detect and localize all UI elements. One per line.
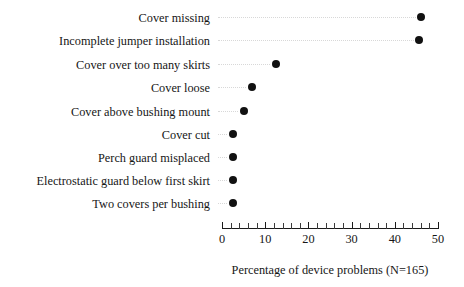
category-label: Cover cut <box>0 125 210 145</box>
leader-line <box>218 17 416 19</box>
x-tick-minor <box>300 223 301 229</box>
x-tick-minor <box>231 223 232 229</box>
x-tick-minor <box>421 223 422 229</box>
data-point-marker <box>417 13 425 21</box>
x-tick-major <box>308 222 309 229</box>
x-tick-minor <box>274 223 275 229</box>
leader-line <box>218 134 227 136</box>
x-tick-minor <box>386 223 387 229</box>
dot-plot-row: Electrostatic guard below first skirt <box>0 171 464 191</box>
leader-line <box>218 203 227 205</box>
category-label: Incomplete jumper installation <box>0 31 210 51</box>
x-tick-major <box>438 222 439 229</box>
dot-plot-row: Cover above bushing mount <box>0 102 464 122</box>
x-tick-minor <box>239 223 240 229</box>
x-tick-minor <box>317 223 318 229</box>
leader-line <box>218 111 238 113</box>
category-label: Two covers per bushing <box>0 194 210 214</box>
category-label: Electrostatic guard below first skirt <box>0 171 210 191</box>
x-tick-minor <box>283 223 284 229</box>
x-tick-major <box>352 222 353 229</box>
axis-line <box>222 228 438 229</box>
x-tick-minor <box>291 223 292 229</box>
x-tick-label: 30 <box>332 231 372 247</box>
x-tick-minor <box>429 223 430 229</box>
leader-line <box>218 180 227 182</box>
leader-line <box>218 40 414 42</box>
category-label: Perch guard misplaced <box>0 148 210 168</box>
data-point-marker <box>415 36 423 44</box>
leader-line <box>218 87 246 89</box>
data-point-marker <box>229 176 237 184</box>
x-axis: 0 10 20 30 40 50 <box>0 222 464 252</box>
dot-plot-chart: Cover missing Incomplete jumper installa… <box>0 0 464 287</box>
dot-plot-row: Cover cut <box>0 125 464 145</box>
x-tick-minor <box>378 223 379 229</box>
data-point-marker <box>272 60 280 68</box>
x-tick-label: 10 <box>245 231 285 247</box>
category-label: Cover above bushing mount <box>0 102 210 122</box>
x-tick-label: 50 <box>418 231 458 247</box>
data-point-marker <box>240 107 248 115</box>
x-tick-minor <box>343 223 344 229</box>
x-tick-minor <box>248 223 249 229</box>
data-point-marker <box>229 130 237 138</box>
x-tick-label: 40 <box>375 231 415 247</box>
data-point-marker <box>229 153 237 161</box>
x-tick-major <box>395 222 396 229</box>
category-label: Cover missing <box>0 8 210 28</box>
dot-plot-row: Cover loose <box>0 78 464 98</box>
data-point-marker <box>248 83 256 91</box>
x-tick-label: 20 <box>288 231 328 247</box>
x-tick-minor <box>403 223 404 229</box>
dot-plot-row: Perch guard misplaced <box>0 148 464 168</box>
x-tick-minor <box>369 223 370 229</box>
dot-plot-row: Incomplete jumper installation <box>0 31 464 51</box>
x-tick-minor <box>257 223 258 229</box>
dot-plot-row: Cover over too many skirts <box>0 55 464 75</box>
dot-plot-row: Two covers per bushing <box>0 194 464 214</box>
dot-plot-row: Cover missing <box>0 8 464 28</box>
leader-line <box>218 157 227 159</box>
x-tick-major <box>265 222 266 229</box>
x-axis-title: Percentage of device problems (N=165) <box>222 262 438 278</box>
x-tick-minor <box>360 223 361 229</box>
x-tick-label: 0 <box>202 231 242 247</box>
category-label: Cover over too many skirts <box>0 55 210 75</box>
x-tick-minor <box>334 223 335 229</box>
x-tick-minor <box>412 223 413 229</box>
leader-line <box>218 64 270 66</box>
x-tick-major <box>222 222 223 229</box>
category-label: Cover loose <box>0 78 210 98</box>
data-point-marker <box>229 199 237 207</box>
x-tick-minor <box>326 223 327 229</box>
